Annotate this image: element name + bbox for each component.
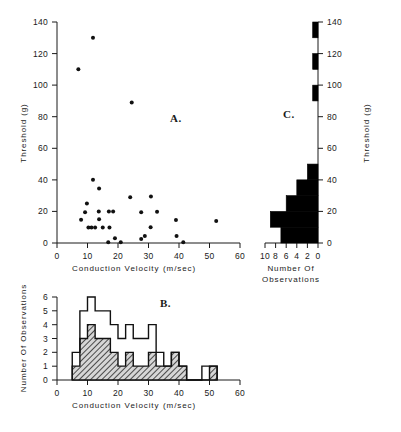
scatter-point bbox=[106, 240, 110, 244]
panel-c-ytick-40: 40 bbox=[327, 175, 337, 185]
panel-a-y-ticks bbox=[52, 22, 57, 243]
histogram-bar bbox=[313, 54, 318, 70]
panel-b-xtick-10: 10 bbox=[82, 388, 92, 398]
panel-c-id: C. bbox=[283, 108, 295, 120]
scatter-point bbox=[113, 236, 117, 240]
panel-c-xtick-2: 2 bbox=[305, 251, 310, 261]
panel-b-hatched-histogram bbox=[72, 325, 217, 380]
scatter-point bbox=[107, 209, 111, 213]
panel-c-x-ticks bbox=[265, 243, 318, 248]
scatter-point bbox=[139, 210, 143, 214]
panel-c-xlabel-line1: Number Of bbox=[267, 264, 314, 273]
scatter-point bbox=[76, 67, 80, 71]
scatter-point bbox=[85, 202, 89, 206]
panel-a-xtick-10: 10 bbox=[82, 251, 92, 261]
panel-b-y-ticklabels: 0 1 2 3 4 5 6 bbox=[43, 292, 48, 385]
panel-b-x-ticklabels: 0 10 20 30 40 50 60 bbox=[54, 388, 245, 398]
panel-b-xtick-30: 30 bbox=[143, 388, 153, 398]
panel-c-xtick-4: 4 bbox=[294, 251, 299, 261]
scatter-point bbox=[175, 234, 179, 238]
panel-c-ytick-60: 60 bbox=[327, 143, 337, 153]
panel-b-xtick-0: 0 bbox=[54, 388, 59, 398]
panel-c-xlabel-line2: Observations bbox=[262, 275, 320, 284]
scatter-point bbox=[174, 218, 178, 222]
scatter-point bbox=[97, 209, 101, 213]
scatter-point bbox=[91, 36, 95, 40]
scatter-point bbox=[130, 101, 134, 105]
panel-a-id: A. bbox=[170, 112, 182, 124]
scatter-point bbox=[119, 240, 123, 244]
panel-b-ytick-3: 3 bbox=[43, 334, 48, 344]
panel-c-xtick-10: 10 bbox=[260, 251, 270, 261]
scatter-point bbox=[97, 187, 101, 191]
panel-a-xlabel: Conduction Velocity bbox=[72, 264, 159, 273]
panel-c: 0 20 40 60 80 100 120 140 10 8 6 bbox=[260, 17, 371, 284]
panel-a-ytick-140: 140 bbox=[33, 17, 48, 27]
figure-svg: 0 20 40 60 80 100 120 140 0 1 bbox=[0, 0, 401, 432]
panel-a-xtick-30: 30 bbox=[143, 251, 153, 261]
histogram-bar bbox=[307, 164, 318, 180]
panel-b-xtick-20: 20 bbox=[113, 388, 123, 398]
panel-b-xtick-40: 40 bbox=[174, 388, 184, 398]
panel-a-ytick-20: 20 bbox=[38, 206, 48, 216]
panel-b-y-ticks bbox=[52, 297, 57, 380]
histogram-bar bbox=[286, 196, 318, 212]
panel-b-xlabel: Conduction Velocity bbox=[72, 401, 159, 410]
panel-a-ytick-60: 60 bbox=[38, 143, 48, 153]
panel-c-xtick-8: 8 bbox=[273, 251, 278, 261]
panel-a-xtick-60: 60 bbox=[235, 251, 245, 261]
scatter-point bbox=[89, 226, 93, 230]
scatter-point bbox=[83, 210, 87, 214]
panel-c-ylabel: Threshold (g) bbox=[362, 103, 371, 162]
scatter-point bbox=[101, 226, 105, 230]
panel-c-ytick-20: 20 bbox=[327, 206, 337, 216]
panel-a-ytick-80: 80 bbox=[38, 112, 48, 122]
panel-c-y-ticklabels: 0 20 40 60 80 100 120 140 bbox=[327, 17, 342, 248]
scatter-point bbox=[155, 210, 159, 214]
panel-a: 0 20 40 60 80 100 120 140 0 1 bbox=[19, 17, 245, 273]
histogram-hatched-series bbox=[72, 325, 217, 380]
panel-c-ytick-140: 140 bbox=[327, 17, 342, 27]
panel-b-ytick-5: 5 bbox=[43, 306, 48, 316]
scatter-point bbox=[143, 234, 147, 238]
panel-b-xtick-50: 50 bbox=[204, 388, 214, 398]
panel-c-bars bbox=[270, 22, 318, 243]
panel-a-xtick-40: 40 bbox=[174, 251, 184, 261]
panel-a-x-ticklabels: 0 10 20 30 40 50 60 bbox=[54, 251, 245, 261]
panel-b-ytick-0: 0 bbox=[43, 375, 48, 385]
panel-a-scatter-points bbox=[76, 36, 218, 245]
panel-c-ytick-80: 80 bbox=[327, 112, 337, 122]
panel-b: 0 1 2 3 4 5 6 0 10 20 30 bbox=[19, 284, 245, 410]
panel-b-ytick-4: 4 bbox=[43, 320, 48, 330]
panel-c-x-ticklabels: 10 8 6 4 2 0 bbox=[260, 251, 321, 261]
panel-c-ytick-0: 0 bbox=[327, 238, 332, 248]
panel-c-y-ticks bbox=[318, 22, 323, 243]
scatter-point bbox=[149, 225, 153, 229]
panel-a-ytick-0: 0 bbox=[43, 238, 48, 248]
histogram-bar bbox=[281, 227, 318, 243]
panel-c-ytick-100: 100 bbox=[327, 80, 342, 90]
scatter-point bbox=[79, 218, 83, 222]
panel-b-xtick-60: 60 bbox=[235, 388, 245, 398]
scatter-point bbox=[107, 226, 111, 230]
panel-a-ytick-40: 40 bbox=[38, 175, 48, 185]
panel-b-ytick-6: 6 bbox=[43, 292, 48, 302]
panel-c-xtick-6: 6 bbox=[284, 251, 289, 261]
panel-c-xtick-0: 0 bbox=[315, 251, 320, 261]
scatter-point bbox=[214, 219, 218, 223]
scatter-point bbox=[93, 226, 97, 230]
panel-c-ytick-120: 120 bbox=[327, 49, 342, 59]
scatter-point bbox=[149, 194, 153, 198]
panel-b-id: B. bbox=[160, 297, 171, 309]
panel-b-ytick-2: 2 bbox=[43, 347, 48, 357]
panel-a-xtick-0: 0 bbox=[54, 251, 59, 261]
panel-a-xtick-20: 20 bbox=[113, 251, 123, 261]
panel-a-xunits: (m/sec) bbox=[163, 264, 196, 273]
histogram-bar bbox=[313, 85, 318, 101]
scatter-point bbox=[111, 209, 115, 213]
panel-a-xtick-50: 50 bbox=[204, 251, 214, 261]
panel-b-x-ticks bbox=[57, 380, 240, 385]
scatter-point bbox=[91, 178, 95, 182]
panel-a-x-ticks bbox=[57, 243, 240, 248]
panel-a-y-ticklabels: 0 20 40 60 80 100 120 140 bbox=[33, 17, 48, 248]
